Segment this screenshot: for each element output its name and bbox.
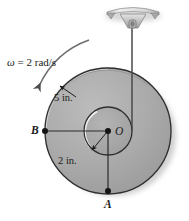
inner-radius-label: 2 in. xyxy=(58,156,77,167)
point-b-label: B xyxy=(31,125,39,137)
omega-unit: rad/s xyxy=(35,56,56,68)
point-o-label: O xyxy=(115,126,123,138)
omega-symbol: ω xyxy=(7,56,15,68)
outer-radius-label: 5 in. xyxy=(54,93,73,104)
diagram-canvas xyxy=(0,0,189,221)
mechanics-diagram-rotating-disc: ω = 2 rad/s 5 in. 2 in. B O A xyxy=(0,0,189,221)
point-o-marker xyxy=(105,128,111,134)
point-b-marker xyxy=(42,128,48,134)
equals-sign: = xyxy=(18,56,24,68)
point-a-marker xyxy=(105,188,111,194)
ceiling-bracket xyxy=(105,8,161,32)
omega-value: 2 xyxy=(27,56,33,68)
point-a-label: A xyxy=(104,199,112,211)
angular-velocity-label: ω = 2 rad/s xyxy=(7,57,56,68)
